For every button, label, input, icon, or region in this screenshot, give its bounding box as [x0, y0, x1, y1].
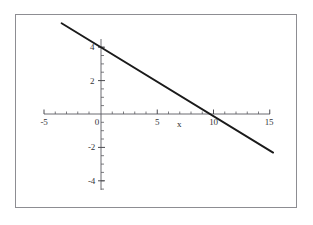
y-tick-label--2: -2 [88, 143, 95, 152]
chart-screenshot: -5 0 5 10 15 4 2 -2 -4 x [0, 0, 313, 225]
y-tick-label--4: -4 [88, 176, 95, 185]
x-tick-label-0: 0 [95, 118, 99, 127]
y-tick-label-2: 2 [90, 76, 94, 85]
x-tick-label--5: -5 [40, 118, 47, 127]
x-tick-label-10: 10 [209, 118, 218, 127]
plot-frame-border [15, 14, 297, 208]
x-tick-label-15: 15 [265, 118, 274, 127]
y-tick-label-4: 4 [90, 43, 94, 52]
x-axis-label: x [177, 120, 182, 129]
x-tick-label-5: 5 [155, 118, 159, 127]
